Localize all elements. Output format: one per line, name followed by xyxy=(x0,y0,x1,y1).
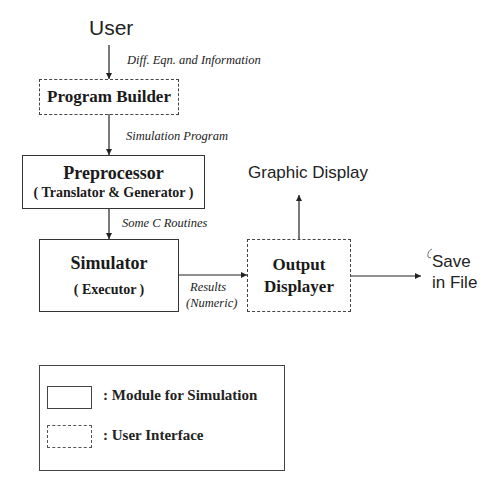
legend-dashed-swatch xyxy=(47,425,92,448)
save-label-line2: in File xyxy=(432,272,477,293)
node-simulator-title: Simulator xyxy=(70,252,147,275)
node-preprocessor-title: Preprocessor xyxy=(63,162,163,185)
node-program-builder-title: Program Builder xyxy=(47,86,171,107)
node-preprocessor-subtitle: ( Translator & Generator ) xyxy=(34,184,194,202)
legend xyxy=(39,365,285,471)
user-label: User xyxy=(89,16,133,40)
edge-label-numeric: (Numeric) xyxy=(186,296,237,311)
legend-solid-swatch xyxy=(47,386,92,409)
node-preprocessor: Preprocessor ( Translator & Generator ) xyxy=(22,155,205,209)
edge-label-diff-eqn: Diff. Eqn. and Information xyxy=(127,53,261,68)
save-in-file-label: Save in File xyxy=(432,251,477,293)
legend-solid-label: : Module for Simulation xyxy=(103,387,257,404)
node-output-displayer-line1: Output xyxy=(273,254,326,275)
edge-label-c-routines: Some C Routines xyxy=(122,216,207,231)
node-simulator-subtitle: ( Executor ) xyxy=(74,281,145,299)
node-output-displayer: Output Displayer xyxy=(247,239,351,312)
node-program-builder: Program Builder xyxy=(39,79,179,115)
node-simulator: Simulator ( Executor ) xyxy=(39,239,179,312)
edge-label-results: Results xyxy=(190,280,226,295)
legend-dashed-label: : User Interface xyxy=(103,427,204,444)
graphic-display-label: Graphic Display xyxy=(248,163,368,183)
node-output-displayer-line2: Displayer xyxy=(264,276,334,297)
save-label-line1: Save xyxy=(432,251,477,272)
edge-label-simulation-program: Simulation Program xyxy=(126,129,228,144)
